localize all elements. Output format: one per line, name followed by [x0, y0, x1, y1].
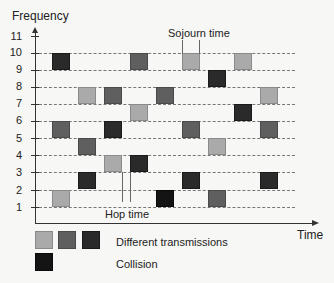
hop-block	[260, 87, 278, 104]
tick-mark-7	[31, 104, 39, 105]
tick-mark-4	[31, 155, 39, 156]
hop-block	[130, 53, 148, 70]
hop-block	[104, 121, 122, 138]
sojourn-marker-right	[199, 40, 200, 54]
gridline-7	[39, 104, 295, 105]
collision-block	[156, 190, 174, 207]
tick-mark-3	[31, 172, 39, 173]
sojourn-marker-left	[182, 40, 183, 54]
y-tick-7: 7	[0, 97, 22, 109]
y-tick-6: 6	[0, 114, 22, 126]
tick-mark-11	[31, 36, 39, 37]
y-tick-11: 11	[0, 30, 22, 42]
gridline-10	[39, 53, 295, 54]
hop-block	[208, 190, 226, 207]
hop-block	[78, 87, 96, 104]
tick-mark-5	[31, 138, 39, 139]
hop-block	[156, 87, 174, 104]
hop-block	[130, 155, 148, 172]
legend-transmissions-label: Different transmissions	[116, 236, 228, 248]
legend-swatch-mid	[58, 231, 76, 249]
gridline-4	[39, 155, 295, 156]
hop-marker-left	[122, 172, 123, 202]
y-tick-1: 1	[0, 201, 22, 213]
tick-mark-1	[31, 207, 39, 208]
y-tick-2: 2	[0, 184, 22, 196]
hop-block	[130, 104, 148, 121]
y-tick-8: 8	[0, 80, 22, 92]
y-tick-3: 3	[0, 166, 22, 178]
legend-swatch-light	[35, 231, 53, 249]
y-axis-label: Frequency	[12, 9, 69, 23]
tick-mark-9	[31, 70, 39, 71]
tick-mark-8	[31, 87, 39, 88]
y-tick-10: 10	[0, 46, 22, 58]
hop-block	[260, 121, 278, 138]
tick-mark-10	[31, 53, 39, 54]
hop-block	[260, 172, 278, 189]
hop-block	[52, 53, 70, 70]
legend-swatch-collision	[35, 253, 53, 271]
sojourn-time-label: Sojourn time	[168, 27, 230, 39]
hop-block	[78, 172, 96, 189]
x-axis-label: Time	[297, 228, 323, 242]
gridline-1	[39, 207, 295, 208]
hop-block	[52, 190, 70, 207]
hop-block	[104, 155, 122, 172]
hop-block	[182, 53, 200, 70]
gridline-6	[39, 121, 295, 122]
hop-block	[52, 121, 70, 138]
hop-block	[78, 138, 96, 155]
y-tick-4: 4	[0, 149, 22, 161]
hop-block	[208, 70, 226, 87]
hop-block	[104, 87, 122, 104]
hop-time-label: Hop time	[105, 208, 149, 220]
legend-collision-label: Collision	[116, 258, 158, 270]
y-tick-5: 5	[0, 132, 22, 144]
y-tick-9: 9	[0, 63, 22, 75]
x-axis	[35, 223, 315, 224]
gridline-9	[39, 70, 295, 71]
hop-marker-right	[130, 172, 131, 202]
hop-block	[234, 104, 252, 121]
hop-block	[182, 121, 200, 138]
x-axis-arrow-icon	[312, 220, 319, 226]
hop-block	[182, 172, 200, 189]
hop-block	[234, 53, 252, 70]
tick-mark-6	[31, 121, 39, 122]
tick-mark-2	[31, 190, 39, 191]
legend-swatch-dark	[82, 231, 100, 249]
hop-block	[208, 138, 226, 155]
y-axis	[35, 30, 36, 223]
